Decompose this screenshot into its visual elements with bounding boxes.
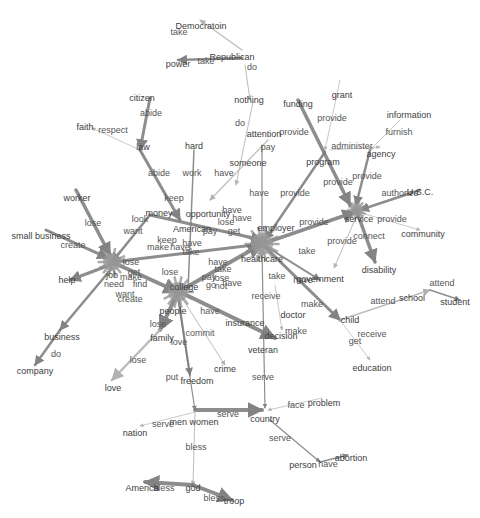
edge-label: keep <box>164 194 184 203</box>
node-label: decision <box>264 332 297 341</box>
edge-label: respect <box>98 126 128 135</box>
edge-label: have <box>232 214 252 223</box>
edge-label: bless <box>203 494 224 503</box>
edge-label: serve <box>252 373 274 382</box>
edge-label: lose <box>123 258 140 267</box>
node-label: god <box>185 484 200 493</box>
edge-label: provide <box>327 237 357 246</box>
edge-label: face <box>287 401 304 410</box>
edge-label: serve <box>269 434 291 443</box>
node-label: education <box>352 364 391 373</box>
node-label: America <box>125 484 158 493</box>
node-label: U.S.C. <box>407 188 434 197</box>
node-label: government <box>296 275 344 284</box>
node-label: child <box>341 316 360 325</box>
node-label: company <box>17 367 54 376</box>
edge-label: have <box>214 169 234 178</box>
node-label: country <box>250 415 280 424</box>
edge-label: commit <box>186 329 215 338</box>
node-label: grant <box>332 91 353 100</box>
node-label: law <box>136 143 150 152</box>
node-label: nation <box>123 429 148 438</box>
edge-label: get <box>349 337 362 346</box>
edge-label: have <box>222 279 242 288</box>
node-label: disability <box>362 266 397 275</box>
edge-label: abide <box>140 109 162 118</box>
node-label: freedom <box>180 377 213 386</box>
node-label: service <box>345 215 374 224</box>
edge-label: provide <box>299 218 329 227</box>
node-label: insurance <box>225 319 264 328</box>
node-label: student <box>440 298 470 307</box>
edge-label: take <box>298 247 315 256</box>
node-label: agency <box>366 150 395 159</box>
edge-label: provide <box>280 189 310 198</box>
node-label: college <box>170 283 199 292</box>
node-label: problem <box>308 399 341 408</box>
edge-label: take <box>268 272 285 281</box>
edge-label: serve <box>217 410 239 419</box>
node-label: someone <box>229 159 266 168</box>
edge-label: pay <box>261 143 276 152</box>
edge-label: lose <box>85 219 102 228</box>
node-label: healthcare <box>241 255 283 264</box>
node-label: job <box>106 271 118 280</box>
node-label: funding <box>283 100 313 109</box>
edge-label: bless <box>185 443 206 452</box>
edge-label: want <box>123 227 142 236</box>
edge-label: provide <box>279 128 309 137</box>
node-label: community <box>401 230 445 239</box>
edge-label: receive <box>357 330 386 339</box>
node-label: person <box>289 461 317 470</box>
edge-label: connect <box>353 232 385 241</box>
node-label: money <box>145 209 172 218</box>
hub-left <box>103 253 121 271</box>
node-label: American <box>173 225 211 234</box>
edge-label: lose <box>162 268 179 277</box>
edge-label: make <box>147 243 169 252</box>
node-label: faith <box>76 123 93 132</box>
node-label: people <box>159 307 186 316</box>
node-label: crime <box>214 365 236 374</box>
node-label: school <box>399 294 425 303</box>
node-label: doctor <box>280 311 305 320</box>
edge-label: do <box>235 119 245 128</box>
node-label: Democratoin <box>175 22 226 31</box>
node-label: troop <box>224 497 245 506</box>
edge-label: attend <box>429 279 454 288</box>
edge-label: need <box>104 280 124 289</box>
edge-label: have <box>249 189 269 198</box>
edge-label: lose <box>150 320 167 329</box>
edge-label: create <box>117 295 142 304</box>
edge-label: do <box>51 350 61 359</box>
node-label: small business <box>11 232 70 241</box>
node-label: family <box>150 334 174 343</box>
edge-label: furnish <box>385 128 412 137</box>
node-label: abortion <box>335 454 368 463</box>
edge-label: provide <box>377 215 407 224</box>
node-label: hard <box>185 142 203 151</box>
node-label: business <box>44 333 80 342</box>
edge-label: work <box>182 169 201 178</box>
edge-label: provide <box>323 178 353 187</box>
node-label: information <box>387 111 432 120</box>
node-label: Republican <box>209 53 254 62</box>
graph-edge <box>236 102 253 185</box>
edge-label: provide <box>317 114 347 123</box>
edge-label: attend <box>370 297 395 306</box>
edge-label: make <box>301 300 323 309</box>
node-label: power <box>166 60 191 69</box>
edge-label: get <box>228 227 241 236</box>
edge-label: put <box>166 373 179 382</box>
edge-label: abide <box>148 169 170 178</box>
node-label: help <box>58 276 75 285</box>
graph-edge <box>178 300 195 410</box>
node-label: opportunity <box>186 210 231 219</box>
edge-label: receive <box>251 292 280 301</box>
hub-right <box>251 233 273 255</box>
node-label: love <box>105 384 122 393</box>
node-label: citizen <box>129 94 155 103</box>
edge-label: have <box>200 307 220 316</box>
edge-label: do <box>247 63 257 72</box>
node-label: worker <box>63 194 90 203</box>
